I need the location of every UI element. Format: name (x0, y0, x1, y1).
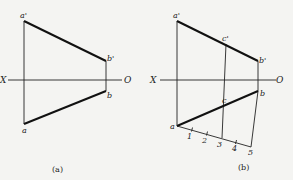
caption-b: (b) (238, 163, 249, 172)
top-view-line-ab (177, 91, 258, 126)
label-b-prime: b' (259, 56, 266, 65)
division-ticks (192, 128, 237, 145)
top-view-line-ab (24, 91, 106, 124)
axis-label-o: O (124, 75, 132, 85)
connector-b-5 (251, 91, 258, 147)
label-b-prime: b' (107, 54, 114, 63)
label-a-prime: a' (20, 11, 27, 20)
axis-label-x: X (149, 75, 157, 85)
axis-label-x: X (0, 75, 7, 85)
division-label-1: 1 (187, 132, 192, 141)
projection-line-c (222, 44, 226, 138)
label-a: a (170, 122, 175, 131)
axis-label-o: O (276, 75, 284, 85)
figure-a: X O a' b' b a (a) (0, 11, 132, 174)
division-label-2: 2 (201, 136, 207, 145)
label-b: b (107, 91, 112, 100)
caption-a: (a) (52, 165, 63, 174)
label-a: a (22, 126, 27, 135)
label-a-prime: a' (173, 11, 180, 20)
label-b: b (260, 89, 265, 98)
label-c: c (222, 96, 227, 105)
division-label-4: 4 (231, 144, 237, 153)
label-c-prime: c' (222, 34, 229, 43)
front-view-line-ab (177, 21, 258, 61)
figure-b: X O a' c' b' b c a 1 2 3 4 5 (b) (149, 11, 284, 172)
division-label-5: 5 (248, 148, 253, 157)
division-label-3: 3 (217, 140, 222, 149)
front-view-line-ab (24, 21, 106, 61)
projection-diagram: X O a' b' b a (a) X O a' c' b' b c a 1 2… (0, 0, 293, 180)
